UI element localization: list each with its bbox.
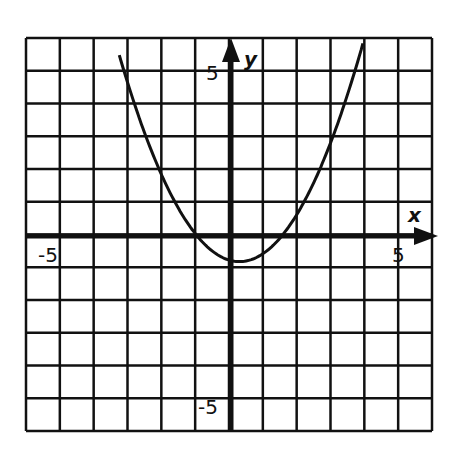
- parabola-curve: [119, 43, 363, 261]
- x-axis-arrow-icon: [414, 227, 438, 245]
- y-axis-label: y: [244, 47, 258, 71]
- x-axis-label: x: [407, 203, 422, 227]
- y-tick-min: -5: [198, 395, 218, 419]
- y-tick-max: 5: [206, 61, 219, 85]
- x-tick-min: -5: [38, 243, 58, 267]
- y-axis-arrow-icon: [222, 38, 240, 62]
- graph: x y -5 5 5 -5: [0, 0, 457, 451]
- x-tick-max: 5: [392, 243, 405, 267]
